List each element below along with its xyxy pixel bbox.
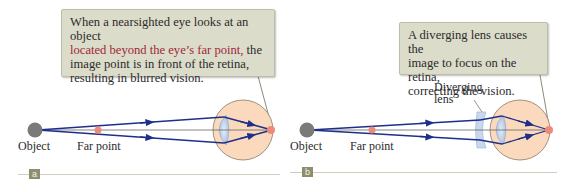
far-point-marker [95, 127, 102, 134]
callout-line: image point is in front of the retina, [70, 57, 266, 71]
diverging-lens-label: Diverging lens [434, 81, 482, 105]
callout-line: A diverging lens causes the [408, 28, 539, 56]
far-point-marker [369, 127, 376, 134]
callout-line: resulting in blurred vision. [70, 71, 266, 85]
callout-panel-a: When a nearsighted eye looks at an objec… [61, 9, 275, 77]
object-label: Object [290, 139, 322, 154]
image-point-marker [267, 126, 275, 134]
panel-b-badge: b [302, 167, 313, 177]
image-point-marker [545, 126, 553, 134]
callout-line: located beyond the eye’s far point, the [70, 43, 266, 57]
far-point-label: Far point [350, 139, 394, 154]
object-icon [300, 123, 315, 138]
highlighted-text: located beyond the eye’s far point, [70, 43, 243, 57]
callout-line: When a nearsighted eye looks at an objec… [70, 15, 266, 43]
panel-a-diagram [28, 76, 276, 160]
far-point-label: Far point [77, 139, 121, 154]
object-label: Object [18, 139, 50, 154]
panel-a-badge: a [29, 169, 40, 179]
panel-b-rule [290, 172, 557, 173]
callout-panel-b: A diverging lens causes the image to foc… [399, 22, 548, 75]
panel-a-rule [18, 174, 280, 175]
object-icon [28, 123, 43, 138]
